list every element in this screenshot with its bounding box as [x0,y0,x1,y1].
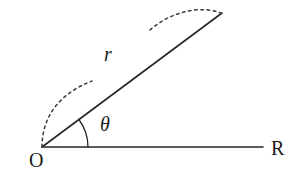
angle-arc [79,120,88,148]
dashed-arc-lower [42,81,92,147]
ray-line [42,13,222,147]
diagram-svg [0,0,299,176]
angle-label: θ [100,114,110,134]
origin-label: O [29,150,43,170]
ray-axis-label: R [271,138,284,158]
figure-canvas: r θ O R [0,0,299,176]
radius-label: r [104,44,112,64]
